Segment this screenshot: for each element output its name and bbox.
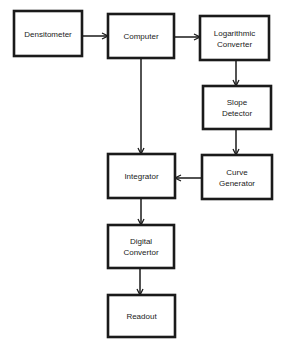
node-box [203, 86, 271, 129]
node-densitometer: Densitometer [14, 11, 82, 56]
node-log-converter: LogarithmicConverter [200, 16, 269, 60]
node-integrator: Integrator [108, 154, 175, 198]
node-label: Detector [222, 109, 253, 118]
flowchart-diagram: DensitometerComputerLogarithmicConverter… [0, 0, 286, 348]
node-slope-detector: SlopeDetector [203, 86, 271, 129]
node-label: Slope [227, 98, 248, 107]
node-digital-convertor: DigitalConvertor [108, 225, 174, 268]
node-readout: Readout [108, 295, 175, 337]
node-label: Integrator [124, 172, 159, 181]
node-label: Computer [123, 32, 158, 41]
node-label: Curve [226, 168, 248, 177]
node-box [108, 225, 174, 268]
node-label: Densitometer [24, 30, 72, 39]
node-label: Convertor [123, 248, 158, 257]
node-label: Digital [130, 237, 152, 246]
nodes: DensitometerComputerLogarithmicConverter… [14, 11, 272, 337]
node-label: Readout [126, 312, 157, 321]
node-label: Converter [217, 40, 252, 49]
node-curve-generator: CurveGenerator [202, 155, 272, 199]
node-box [200, 16, 269, 60]
node-label: Generator [219, 179, 255, 188]
node-computer: Computer [108, 14, 174, 58]
node-label: Logarithmic [214, 29, 255, 38]
node-box [202, 155, 272, 199]
